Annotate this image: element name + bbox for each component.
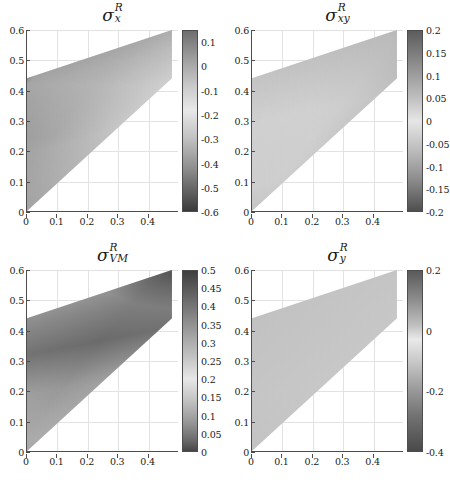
panel-sigma-y: σRy 0 0.1 0.2 0.3 0.4 0.5	[225, 240, 450, 480]
panel-title-sigma-y: σRy	[225, 242, 450, 264]
x-axis-sigma-x: 0 0.1 0.2 0.3 0.4	[26, 214, 178, 230]
colorbar-tick-label: 0.05	[201, 428, 221, 439]
colorbar-tick-label: 0.05	[426, 93, 446, 104]
colorbar-tick-label: 0.1	[201, 37, 216, 48]
title-subscript: xy	[338, 13, 350, 24]
colorbar-tick-label: 0.5	[201, 265, 216, 276]
colorbar-tick-label: -0.2	[426, 207, 444, 218]
sigma-symbol: σ	[325, 5, 337, 25]
colorbar-tick-label: -0.2	[201, 109, 219, 120]
colorbar-sigma-y	[407, 270, 423, 452]
x-axis-sigma-xy: 0 0.1 0.2 0.3 0.4	[251, 214, 403, 230]
colorbar-sigma-xy	[407, 30, 423, 212]
y-tick-label: 0.5	[0, 55, 24, 66]
x-axis-sigma-vm: 0 0.1 0.2 0.3 0.4	[26, 454, 178, 470]
x-axis-sigma-y: 0 0.1 0.2 0.3 0.4	[251, 454, 403, 470]
colorbar-tick-label: 0.15	[426, 47, 446, 58]
y-tick-label: 0.6	[225, 265, 249, 276]
y-tick-label: 0.4	[0, 325, 24, 336]
colorbar-tick-label: -0.4	[201, 158, 219, 169]
colorbar-tick-label: 0	[201, 61, 207, 72]
plot-area-sigma-x	[26, 30, 178, 212]
colorbar-labels-sigma-xy: 0.2 0.15 0.1 0.05 0 -0.05 -0.1 -0.15 -0.…	[423, 30, 450, 212]
sigma-symbol: σ	[97, 245, 109, 265]
colorbar-tick-label: 0.1	[426, 70, 441, 81]
panel-title-sigma-x: σRx	[0, 2, 225, 24]
y-tick-label: 0.2	[0, 386, 24, 397]
colorbar-tick-label: 0.25	[201, 356, 221, 367]
colorbar-tick-label: 0	[201, 447, 207, 458]
colorbar-tick-label: -0.4	[426, 447, 444, 458]
y-tick-label: 0.3	[225, 356, 249, 367]
y-tick-label: 0.5	[225, 55, 249, 66]
y-tick-label: 0.1	[0, 176, 24, 187]
title-subscript: y	[340, 253, 348, 264]
colorbar-tick-label: -0.1	[201, 85, 219, 96]
y-tick-label: 0.5	[225, 295, 249, 306]
stress-field-figure: σRx 0 0.1 0.2 0.3 0.4	[0, 0, 450, 480]
y-tick-label: 0.6	[225, 25, 249, 36]
y-tick-label: 0.5	[0, 295, 24, 306]
colorbar-tick-label: 0.2	[426, 265, 441, 276]
colorbar-tick-label: -0.05	[426, 138, 449, 149]
plot-area-sigma-xy	[251, 30, 403, 212]
y-tick-label: 0.1	[225, 416, 249, 427]
colorbar-tick-label: 0.4	[201, 301, 216, 312]
colorbar-tick-label: 0.35	[201, 319, 221, 330]
panel-sigma-x: σRx 0 0.1 0.2 0.3 0.4	[0, 0, 225, 240]
y-tick-label: 0.2	[225, 386, 249, 397]
y-axis-sigma-y: 0 0.1 0.2 0.3 0.4 0.5 0.6	[225, 270, 249, 452]
y-tick-label: 0.2	[225, 146, 249, 157]
colorbar-tick-label: 0.15	[201, 392, 221, 403]
y-tick-label: 0.2	[0, 146, 24, 157]
panel-title-sigma-xy: σRxy	[225, 2, 450, 24]
colorbar-tick-label: 0	[426, 116, 432, 127]
colorbar-tick-label: -0.15	[426, 184, 449, 195]
colorbar-tick-label: 0.1	[201, 410, 216, 421]
y-tick-label: 0.1	[0, 416, 24, 427]
colorbar-tick-label: -0.5	[201, 182, 219, 193]
plot-area-sigma-y	[251, 270, 403, 452]
sigma-symbol: σ	[327, 245, 339, 265]
title-subscript: VM	[110, 253, 128, 264]
colorbar-tick-label: 0.45	[201, 283, 221, 294]
title-subscript: x	[115, 13, 123, 24]
colorbar-tick-label: 0	[426, 325, 432, 336]
y-axis-sigma-vm: 0 0.1 0.2 0.3 0.4 0.5 0.6	[0, 270, 24, 452]
plot-area-sigma-vm	[26, 270, 178, 452]
colorbar-sigma-x	[182, 30, 198, 212]
y-tick-label: 0.4	[225, 85, 249, 96]
colorbar-tick-label: -0.1	[426, 161, 444, 172]
colorbar-tick-label: -0.3	[201, 134, 219, 145]
colorbar-sigma-vm	[182, 270, 198, 452]
y-axis-sigma-x: 0 0.1 0.2 0.3 0.4 0.5 0.6	[0, 30, 24, 212]
colorbar-tick-label: 0.2	[201, 374, 216, 385]
y-tick-label: 0.6	[0, 265, 24, 276]
panel-sigma-xy: σRxy 0 0.1 0.2 0.3 0.4	[225, 0, 450, 240]
y-tick-label: 0.3	[225, 116, 249, 127]
colorbar-tick-label: -0.2	[426, 386, 444, 397]
colorbar-tick-label: 0.2	[426, 25, 441, 36]
y-tick-label: 0.3	[0, 116, 24, 127]
y-tick-label: 0.3	[0, 356, 24, 367]
panel-sigma-vm: σRVM 0 0.1 0.2 0.3	[0, 240, 225, 480]
y-tick-label: 0.4	[0, 85, 24, 96]
y-axis-sigma-xy: 0 0.1 0.2 0.3 0.4 0.5 0.6	[225, 30, 249, 212]
y-tick-label: 0.1	[225, 176, 249, 187]
colorbar-labels-sigma-y: 0.2 0 -0.2 -0.4	[423, 270, 450, 452]
colorbar-tick-label: 0.3	[201, 337, 216, 348]
colorbar-tick-label: -0.6	[201, 207, 219, 218]
panel-title-sigma-vm: σRVM	[0, 242, 225, 264]
sigma-symbol: σ	[102, 5, 114, 25]
y-tick-label: 0.6	[0, 25, 24, 36]
y-tick-label: 0.4	[225, 325, 249, 336]
